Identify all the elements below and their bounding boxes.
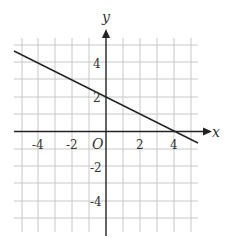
coordinate-plane: x y O -4 -2 2 4 4 2 -2 -4 <box>0 0 232 239</box>
axes <box>14 29 212 236</box>
x-tick-label: 4 <box>170 138 178 152</box>
x-axis-arrow-icon <box>203 128 212 136</box>
y-tick-label: -4 <box>90 195 102 209</box>
x-tick-label: -2 <box>66 138 78 152</box>
x-axis-label: x <box>212 124 220 140</box>
y-tick-label: 4 <box>93 57 101 71</box>
y-tick-label: 2 <box>93 91 101 105</box>
y-tick-label: -2 <box>90 161 102 175</box>
y-axis-label: y <box>101 9 111 25</box>
origin-label: O <box>92 136 104 152</box>
x-tick-label: -4 <box>32 138 44 152</box>
y-axis-arrow-icon <box>102 29 110 38</box>
x-tick-label: 2 <box>136 138 144 152</box>
